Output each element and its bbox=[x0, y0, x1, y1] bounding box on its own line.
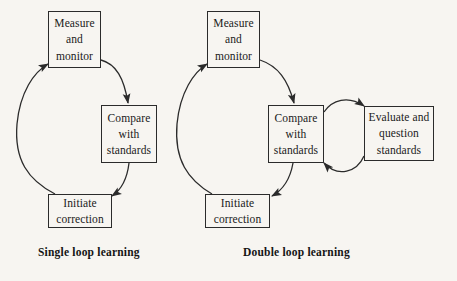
arrow-evaluate-to-compare bbox=[324, 156, 364, 172]
node-line: Initiate bbox=[221, 195, 254, 211]
arrow-compare-to-initiate-left bbox=[112, 163, 129, 196]
node-measure-and-monitor-double[interactable]: Measure and monitor bbox=[207, 11, 260, 68]
node-initiate-correction-double[interactable]: Initiate correction bbox=[205, 194, 270, 228]
arrow-compare-to-initiate-right bbox=[272, 163, 293, 196]
node-line: question bbox=[379, 125, 419, 141]
node-line: Compare bbox=[108, 110, 151, 126]
node-line: with bbox=[286, 126, 307, 142]
node-line: Measure bbox=[213, 15, 253, 31]
node-line: and bbox=[66, 31, 83, 47]
node-line: standards bbox=[377, 142, 421, 158]
node-line: monitor bbox=[56, 48, 93, 64]
arrow-initiate-to-measure-right bbox=[177, 64, 212, 194]
caption-double-loop-learning: Double loop learning bbox=[243, 246, 350, 258]
node-line: Compare bbox=[275, 110, 318, 126]
node-line: monitor bbox=[215, 48, 252, 64]
node-line: and bbox=[225, 31, 242, 47]
node-evaluate-and-question-standards[interactable]: Evaluate and question standards bbox=[364, 106, 434, 161]
arrow-measure-to-compare-right bbox=[260, 60, 294, 103]
node-line: Measure bbox=[54, 15, 94, 31]
node-line: with bbox=[119, 126, 140, 142]
node-measure-and-monitor-single[interactable]: Measure and monitor bbox=[48, 11, 101, 68]
node-line: standards bbox=[274, 142, 318, 158]
arrow-measure-to-compare-left bbox=[101, 60, 128, 103]
node-initiate-correction-single[interactable]: Initiate correction bbox=[48, 194, 112, 228]
node-line: correction bbox=[56, 211, 104, 227]
arrow-initiate-to-measure-left bbox=[17, 64, 55, 194]
node-line: Initiate bbox=[63, 195, 96, 211]
node-compare-with-standards-single[interactable]: Compare with standards bbox=[101, 105, 157, 163]
node-compare-with-standards-double[interactable]: Compare with standards bbox=[268, 105, 324, 163]
caption-single-loop-learning: Single loop learning bbox=[38, 246, 140, 258]
figure-canvas: Measure and monitor Compare with standar… bbox=[0, 0, 457, 281]
node-line: Evaluate and bbox=[369, 109, 430, 125]
node-line: standards bbox=[107, 142, 151, 158]
arrow-compare-to-evaluate bbox=[324, 100, 364, 112]
node-line: correction bbox=[214, 211, 262, 227]
